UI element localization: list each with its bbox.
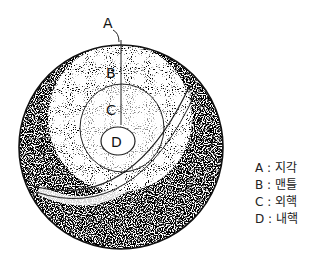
- label-d: D: [111, 134, 122, 150]
- label-b: B: [106, 65, 116, 81]
- legend-item-outer-core: C : 외핵: [255, 194, 298, 211]
- earth-diagram: A B C D: [0, 0, 322, 273]
- legend: A : 지각 B : 맨틀 C : 외핵 D : 내핵: [255, 160, 298, 228]
- label-a: A: [103, 15, 113, 31]
- label-c: C: [106, 102, 116, 118]
- legend-item-crust: A : 지각: [255, 160, 298, 177]
- legend-item-mantle: B : 맨틀: [255, 177, 298, 194]
- legend-item-inner-core: D : 내핵: [255, 211, 298, 228]
